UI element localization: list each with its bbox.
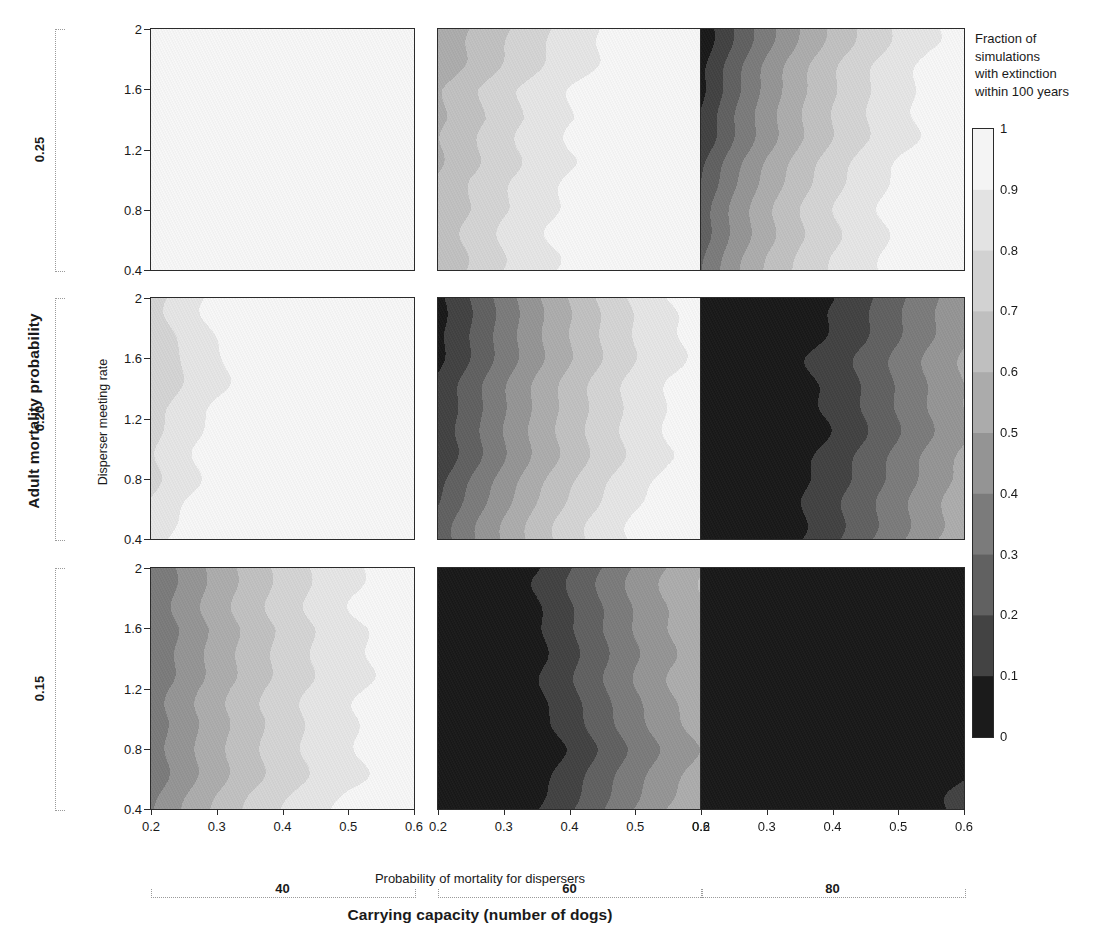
x-tick-label: 0.2 bbox=[684, 820, 718, 833]
x-tick-mark bbox=[217, 809, 218, 815]
x-tick-label: 0.2 bbox=[421, 820, 455, 833]
contour-surface bbox=[151, 568, 414, 809]
y-tick-label: 0.4 bbox=[102, 533, 142, 546]
colorbar-tick-label: 0.9 bbox=[1000, 183, 1044, 196]
y-tick-label: 1.6 bbox=[102, 622, 142, 635]
contour-panel-k40-m0.20 bbox=[150, 297, 415, 540]
colorbar-tick-label: 0.3 bbox=[1000, 548, 1044, 561]
x-tick-mark bbox=[438, 809, 439, 815]
contour-surface bbox=[438, 568, 701, 809]
x-tick-label: 0.4 bbox=[266, 820, 300, 833]
x-axis-title: Probability of mortality for dispersers bbox=[0, 871, 960, 886]
x-tick-mark bbox=[898, 809, 899, 815]
colorbar-tick-label: 0.4 bbox=[1000, 487, 1044, 500]
contour-surface bbox=[701, 568, 964, 809]
row-group-bracket bbox=[55, 568, 65, 811]
legend-title-line: with extinction bbox=[975, 65, 1114, 83]
col-axis-title: Carrying capacity (number of dogs) bbox=[0, 906, 960, 924]
contour-panel-k60-m0.25 bbox=[437, 28, 702, 271]
legend-title-line: within 100 years bbox=[975, 83, 1114, 101]
colorbar-tick-label: 0.6 bbox=[1000, 365, 1044, 378]
legend-title-line: simulations bbox=[975, 48, 1114, 66]
x-tick-label: 0.5 bbox=[881, 820, 915, 833]
row-group-0.20: 0.20 bbox=[18, 298, 60, 539]
row-group-bracket bbox=[55, 29, 65, 272]
x-tick-label: 0.5 bbox=[331, 820, 365, 833]
y-tick-label: 0.8 bbox=[102, 473, 142, 486]
contour-panel-k80-m0.15 bbox=[700, 567, 965, 810]
y-tick-label: 0.4 bbox=[102, 264, 142, 277]
legend-title: Fraction ofsimulationswith extinctionwit… bbox=[975, 30, 1114, 100]
colorbar-tick-label: 1 bbox=[1000, 122, 1044, 135]
colorbar-tick-label: 0.5 bbox=[1000, 426, 1044, 439]
x-tick-mark bbox=[151, 809, 152, 815]
colorbar-tick-label: 0.2 bbox=[1000, 608, 1044, 621]
colorbar-tick-label: 0 bbox=[1000, 730, 1044, 743]
x-tick-mark bbox=[414, 809, 415, 815]
y-tick-label: 1.2 bbox=[102, 144, 142, 157]
row-group-label: 0.15 bbox=[32, 653, 47, 723]
row-group-0.15: 0.15 bbox=[18, 568, 60, 809]
x-tick-mark bbox=[348, 809, 349, 815]
x-tick-label: 0.4 bbox=[816, 820, 850, 833]
contour-panel-k80-m0.25 bbox=[700, 28, 965, 271]
y-tick-label: 2 bbox=[102, 23, 142, 36]
x-tick-label: 0.5 bbox=[618, 820, 652, 833]
y-tick-label: 1.2 bbox=[102, 683, 142, 696]
legend-title-line: Fraction of bbox=[975, 30, 1114, 48]
colorbar-tick-label: 0.1 bbox=[1000, 669, 1044, 682]
contour-surface bbox=[701, 298, 964, 539]
contour-surface bbox=[438, 29, 701, 270]
y-tick-label: 0.8 bbox=[102, 204, 142, 217]
x-tick-mark bbox=[504, 809, 505, 815]
x-tick-label: 0.6 bbox=[947, 820, 981, 833]
row-group-0.25: 0.25 bbox=[18, 29, 60, 270]
x-tick-mark bbox=[701, 809, 702, 815]
y-tick-label: 0.8 bbox=[102, 743, 142, 756]
x-tick-mark bbox=[570, 809, 571, 815]
contour-surface bbox=[701, 29, 964, 270]
colorbar bbox=[972, 128, 994, 738]
contour-panel-k40-m0.25 bbox=[150, 28, 415, 271]
y-tick-label: 1.2 bbox=[102, 413, 142, 426]
row-group-label: 0.25 bbox=[32, 114, 47, 184]
contour-surface bbox=[438, 298, 701, 539]
y-tick-label: 1.6 bbox=[102, 83, 142, 96]
figure-root: Adult mortality probability Disperser me… bbox=[0, 0, 1114, 936]
y-tick-label: 1.6 bbox=[102, 352, 142, 365]
row-group-label: 0.20 bbox=[32, 383, 47, 453]
x-tick-mark bbox=[767, 809, 768, 815]
y-tick-label: 2 bbox=[102, 562, 142, 575]
x-tick-label: 0.3 bbox=[750, 820, 784, 833]
colorbar-tick-label: 0.7 bbox=[1000, 304, 1044, 317]
contour-panel-k80-m0.20 bbox=[700, 297, 965, 540]
x-tick-mark bbox=[635, 809, 636, 815]
x-tick-label: 0.4 bbox=[553, 820, 587, 833]
contour-surface bbox=[151, 298, 414, 539]
y-tick-label: 2 bbox=[102, 292, 142, 305]
x-tick-mark bbox=[283, 809, 284, 815]
contour-surface bbox=[151, 29, 414, 270]
x-tick-label: 0.3 bbox=[200, 820, 234, 833]
x-tick-label: 0.2 bbox=[134, 820, 168, 833]
row-group-bracket bbox=[55, 298, 65, 541]
contour-panel-k40-m0.15 bbox=[150, 567, 415, 810]
contour-panel-k60-m0.15 bbox=[437, 567, 702, 810]
x-tick-label: 0.3 bbox=[487, 820, 521, 833]
colorbar-tick-label: 0.8 bbox=[1000, 244, 1044, 257]
x-tick-mark bbox=[833, 809, 834, 815]
contour-panel-k60-m0.20 bbox=[437, 297, 702, 540]
x-tick-mark bbox=[964, 809, 965, 815]
y-tick-label: 0.4 bbox=[102, 803, 142, 816]
